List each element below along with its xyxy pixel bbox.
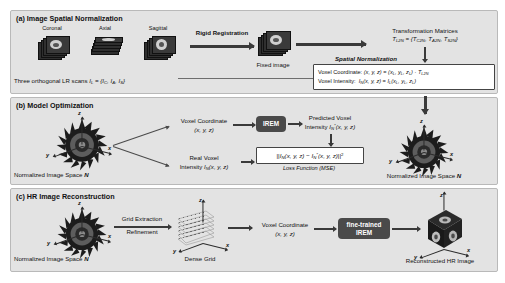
real-voxel-to-loss-arrow — [241, 161, 254, 163]
refinement-label: Refinement — [126, 229, 157, 236]
rigid-registration-arrow — [190, 45, 254, 48]
axis-z-label-dense-grid: z — [199, 197, 202, 203]
coordinate-to-model-arrow-c — [314, 228, 336, 230]
axis-x-label-left-b: x — [108, 145, 111, 151]
axis-y-label-c-left: y — [47, 240, 50, 246]
voxel-coordinate-label-c: Voxel Coordinate — [262, 222, 308, 229]
scan-volume-sagittal — [144, 33, 174, 63]
axis-z-label-output-c: z — [440, 192, 443, 198]
fine-trained-irem-line1: fine-trained — [347, 221, 382, 228]
voxel-coordinate-to-model-arrow — [233, 124, 255, 126]
real-voxel-value-b: Intensity IN(x, y, z) — [180, 164, 229, 171]
normalized-space-symbol-right-b: N — [457, 172, 461, 179]
panel-c-title: (c) HR Image Reconstruction — [16, 192, 115, 201]
scan-label-axial: Axial — [99, 25, 111, 31]
normalized-space-symbol-c: N — [84, 255, 88, 262]
irem-model-chip[interactable]: IREM — [256, 116, 286, 132]
axis-y-label-dense-grid: y — [173, 248, 176, 254]
reconstructed-hr-image-label: Reconstructed HR Image — [406, 258, 474, 265]
normalized-space-label-right-b: Normalized Image Space N — [387, 173, 462, 180]
predicted-voxel-value-b: Intensity IN*(x, y, z) — [305, 124, 355, 131]
transformation-matrices-title: Transformation Matrices — [392, 28, 457, 35]
voxel-coordinate-formula: Voxel Coordinate: (x, y, z) = (xL, yL, z… — [318, 69, 429, 76]
panel-a-scan-caption-formula: IL = {IC, IA, IS} — [89, 77, 125, 84]
axis-x-label-dense-grid: x — [226, 242, 229, 248]
dense-grid-to-coordinate-arrow — [228, 227, 252, 229]
axis-y-label-right-b: y — [389, 158, 392, 164]
transformation-down-arrow — [424, 47, 426, 62]
normalized-space-text-left-b: Normalized Image Space — [14, 171, 82, 178]
loss-function-box: ||IN(x, y, z) − IN*(x, y, z)||2 — [256, 147, 364, 164]
transformation-matrices-formula: TL2N = {TC2N, TA2N, TS2N} — [392, 36, 458, 43]
normalized-space-label-c: Normalized Image Space N — [14, 256, 89, 263]
model-to-output-arrow-c — [392, 228, 420, 230]
axis-z-output-c — [443, 193, 444, 211]
model-to-predicted-arrow — [288, 123, 302, 125]
normalized-space-symbol-left-b: N — [84, 171, 88, 178]
panel-b-title: (b) Model Optimization — [16, 101, 93, 110]
scan-label-sagittal: Sagittal — [149, 25, 168, 31]
axis-y-label-left-b: y — [46, 152, 49, 158]
scan-volume-axial — [91, 33, 121, 63]
panel-a-connector-line — [178, 78, 313, 79]
panel-a-scan-caption: Three orthogonal LR scans IL = {IC, IA, … — [14, 78, 125, 85]
loss-function-caption: Loss Function (MSE) — [283, 165, 335, 171]
axis-z-dense-grid — [202, 201, 203, 223]
scan-volume-coronal — [38, 33, 68, 63]
axis-z-label-right-b: z — [420, 118, 423, 124]
rigid-registration-label: Rigid Registration — [196, 30, 248, 37]
axis-z-left-b — [81, 118, 82, 145]
axis-z-c-left — [81, 208, 82, 233]
fixed-image-label: Fixed image — [256, 62, 289, 69]
axis-x-label-right-b: x — [450, 151, 453, 157]
voxel-coordinate-value-b: (x, y, z) — [194, 127, 214, 134]
reconstructed-hr-cube — [420, 206, 466, 252]
voxel-coordinate-label-b: Voxel Coordinate — [181, 118, 227, 125]
spatial-normalization-label: Spatial Normalization — [335, 56, 397, 63]
scan-label-coronal: Coronal — [42, 25, 62, 31]
spatial-normalization-formula-box: Voxel Coordinate: (x, y, z) = (xL, yL, z… — [313, 64, 495, 90]
axis-x-label-output-c: x — [467, 247, 470, 253]
voxel-intensity-formula: Voxel Intensity: IN(x, y, z) = IL(xL, yL… — [318, 78, 416, 85]
panel-b-right-down-arrow — [424, 96, 427, 114]
normalized-space-text-c: Normalized Image Space — [14, 255, 82, 262]
voxel-coordinate-value-c: (x, y, z) — [275, 231, 295, 238]
fixed-image-volume — [258, 28, 290, 60]
figure-root: (a) Image Spatial Normalization Coronal … — [0, 0, 505, 283]
axis-x-label-c-left: x — [108, 233, 111, 239]
loss-function-formula: ||IN(x, y, z) − IN*(x, y, z)||2 — [276, 152, 343, 160]
panel-a-scan-caption-text: Three orthogonal LR scans — [14, 77, 88, 84]
axis-z-label-left-b: z — [78, 110, 81, 116]
real-voxel-label-b: Real Voxel — [189, 155, 218, 162]
grid-extraction-label: Grid Extraction — [122, 216, 162, 223]
axis-z-right-b — [423, 126, 424, 151]
predicted-voxel-label-b: Predicted Voxel — [309, 115, 351, 122]
predicted-to-loss-arrow — [330, 134, 332, 146]
normalized-space-label-left-b: Normalized Image Space N — [14, 172, 89, 179]
panel-a-title: (a) Image Spatial Normalization — [16, 14, 123, 23]
fine-trained-irem-chip[interactable]: fine-trained IREM — [338, 218, 390, 239]
axis-z-label-c-left: z — [78, 200, 81, 206]
fine-trained-irem-line2: IREM — [356, 229, 372, 236]
transformation-arrow — [296, 43, 366, 46]
normalized-space-text-right-b: Normalized Image Space — [387, 172, 455, 179]
dense-grid-label: Dense Grid — [185, 256, 216, 263]
